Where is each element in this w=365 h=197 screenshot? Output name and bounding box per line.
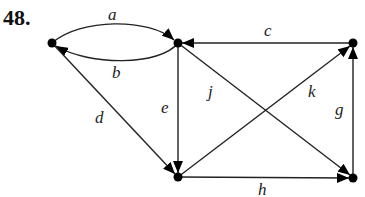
node-top-center <box>174 39 183 48</box>
node-top-right <box>349 39 358 48</box>
label-b: b <box>112 63 121 82</box>
edge-h <box>178 177 349 178</box>
edge-b <box>56 43 178 61</box>
label-d: d <box>95 108 104 127</box>
label-h: h <box>258 180 267 197</box>
node-left <box>48 39 57 48</box>
node-bottom-right <box>349 174 358 183</box>
node-bottom-left <box>174 173 183 182</box>
directed-graph-diagram: a b c d e j k g h <box>0 0 365 197</box>
edge-k <box>178 46 350 177</box>
label-c: c <box>264 21 272 40</box>
label-k: k <box>308 82 316 101</box>
label-a: a <box>108 5 117 24</box>
edge-j <box>178 43 350 175</box>
label-e: e <box>161 98 169 117</box>
edge-a <box>52 24 174 43</box>
label-j: j <box>206 82 213 101</box>
label-g: g <box>335 100 344 119</box>
